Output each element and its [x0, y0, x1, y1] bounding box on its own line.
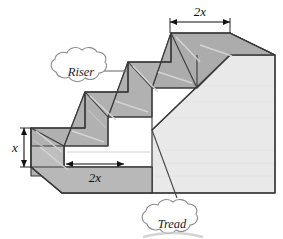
dimension-left-x: x: [11, 128, 31, 167]
riser-callout-label: Riser: [67, 65, 95, 79]
dimension-top-2x: 2x: [170, 4, 230, 33]
dimension-left-label: x: [11, 140, 18, 155]
tread-callout-label: Tread: [158, 217, 187, 231]
staircase-diagram: 2x x 2x Riser Tread: [0, 0, 283, 239]
dimension-top-label: 2x: [194, 4, 207, 19]
riser-callout[interactable]: Riser: [51, 48, 128, 82]
dimension-bottom-label: 2x: [89, 170, 102, 185]
cloud-shadow-arc: [143, 233, 203, 237]
staircase-figure: 2x x 2x Riser Tread: [0, 0, 283, 239]
